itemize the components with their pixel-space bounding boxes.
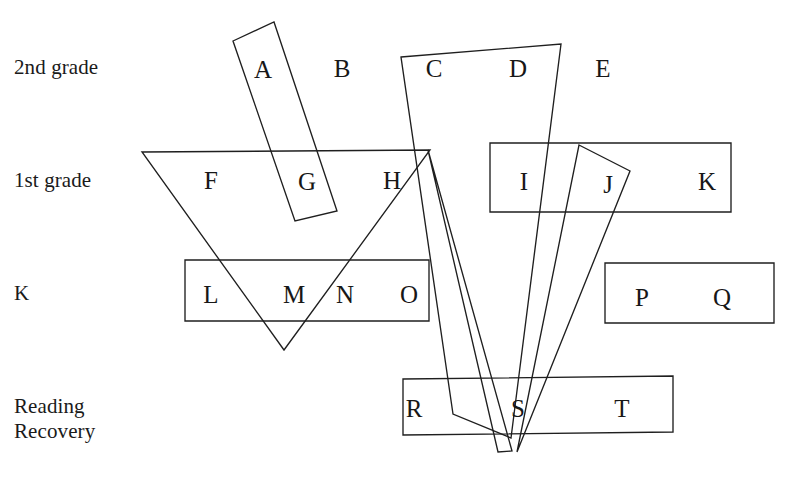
letter-d: D bbox=[509, 56, 527, 81]
letter-r: R bbox=[406, 396, 423, 421]
narrow-triangle-h-s bbox=[428, 150, 512, 452]
letter-s: S bbox=[511, 396, 525, 421]
letter-a: A bbox=[254, 57, 272, 82]
letter-q: Q bbox=[713, 285, 731, 310]
shape-layer bbox=[0, 0, 786, 483]
rectangle-l-m-n-o bbox=[185, 260, 429, 321]
rectangle-p-q bbox=[605, 263, 774, 323]
letter-i: I bbox=[520, 169, 528, 194]
row-k: K bbox=[14, 281, 29, 306]
letter-n: N bbox=[336, 282, 354, 307]
diagram-canvas: 2nd grade1st gradeKReadingRecovery ABCDE… bbox=[0, 0, 786, 483]
row-reading-recovery-line2: Recovery bbox=[14, 419, 95, 444]
row-2nd-grade: 2nd grade bbox=[14, 55, 98, 80]
letter-o: O bbox=[400, 282, 418, 307]
letter-m: M bbox=[283, 282, 305, 307]
row-1st-grade: 1st grade bbox=[14, 168, 91, 193]
letter-l: L bbox=[203, 282, 218, 307]
rectangle-r-s-t bbox=[403, 376, 673, 435]
letter-f: F bbox=[204, 168, 218, 193]
letter-g: G bbox=[298, 169, 316, 194]
letter-c: C bbox=[426, 56, 443, 81]
letter-k-cell: K bbox=[698, 169, 716, 194]
letter-t: T bbox=[614, 396, 629, 421]
slanted-rectangle-a-g bbox=[233, 22, 337, 221]
letter-j: J bbox=[603, 172, 613, 197]
letter-e: E bbox=[595, 56, 610, 81]
row-reading-recovery-line1: Reading bbox=[14, 394, 85, 419]
letter-b: B bbox=[334, 56, 351, 81]
letter-p: P bbox=[635, 285, 649, 310]
letter-h: H bbox=[383, 168, 401, 193]
